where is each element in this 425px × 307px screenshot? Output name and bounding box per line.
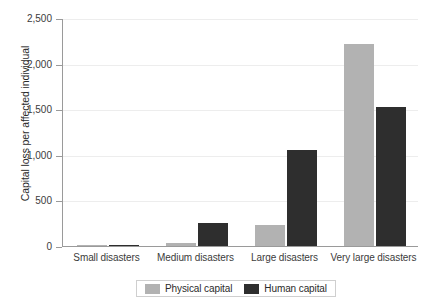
x-axis-tick-label: Medium disasters [157,252,234,263]
bar-human-2 [287,150,317,246]
bar-human-3 [376,107,406,246]
y-axis-tick-label: 1,000 [0,151,52,161]
x-axis-tick-label: Very large disasters [331,252,417,263]
bar-physical-3 [344,44,374,246]
y-axis-title: Capital loss per affected individual [16,0,34,247]
bar-physical-1 [166,243,196,246]
bar-human-1 [198,223,228,246]
y-axis-tick [56,247,62,248]
y-axis-tick-label: 2,500 [0,14,52,24]
y-axis-tick-label: 1,500 [0,105,52,115]
legend-label-human-capital: Human capital [264,283,327,294]
gridline [63,19,418,20]
y-axis-tick [56,110,62,111]
legend-item-human-capital: Human capital [244,283,327,294]
bar-human-0 [109,245,139,246]
y-axis-tick [56,19,62,20]
y-axis-tick [56,201,62,202]
bar-physical-2 [255,225,285,246]
legend-label-physical-capital: Physical capital [165,283,232,294]
chart-legend: Physical capital Human capital [136,280,336,297]
physical-capital-swatch [145,284,160,294]
plot-area [62,19,418,247]
human-capital-swatch [244,284,259,294]
y-axis-tick-label: 2,000 [0,60,52,70]
x-axis-tick-label: Small disasters [73,252,139,263]
y-axis-tick [56,156,62,157]
y-axis-tick-label: 500 [0,196,52,206]
y-axis-tick [56,65,62,66]
y-axis-tick-label: 0 [0,242,52,252]
bar-physical-0 [77,245,107,246]
bar-chart: Capital loss per affected individual 050… [0,0,425,307]
legend-item-physical-capital: Physical capital [145,283,232,294]
x-axis-tick-label: Large disasters [251,252,318,263]
